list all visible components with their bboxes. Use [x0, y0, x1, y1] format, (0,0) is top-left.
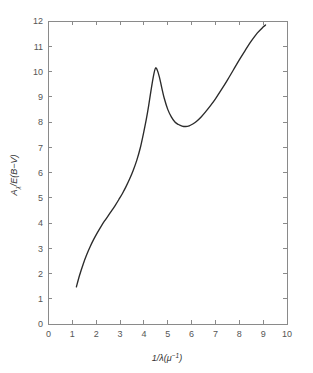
x-tick-label-6: 6 [189, 329, 194, 339]
x-tick-label-2: 2 [94, 329, 99, 339]
y-tick-label-9: 9 [38, 92, 43, 102]
x-tick-label-3: 3 [118, 329, 123, 339]
y-tick-label-7: 7 [38, 143, 43, 153]
x-tick-label-5: 5 [165, 329, 170, 339]
y-tick-label-2: 2 [38, 269, 43, 279]
x-tick-label-7: 7 [213, 329, 218, 339]
y-tick-label-11: 11 [34, 42, 43, 52]
figure-background [0, 0, 313, 373]
x-tick-label-4: 4 [141, 329, 146, 339]
y-tick-label-6: 6 [38, 168, 43, 178]
y-tick-label-1: 1 [38, 294, 43, 304]
y-tick-label-8: 8 [38, 117, 43, 127]
y-tick-label-10: 10 [33, 67, 43, 77]
x-tick-label-1: 1 [70, 329, 75, 339]
x-tick-label-8: 8 [237, 329, 242, 339]
plot-canvas: 012345678910 0123456789101112 1/λ(μ−1) A… [0, 0, 313, 373]
x-tick-label-0: 0 [46, 329, 51, 339]
x-tick-label-10: 10 [282, 329, 292, 339]
y-tick-label-4: 4 [38, 218, 43, 228]
y-tick-label-5: 5 [38, 193, 43, 203]
x-tick-label-9: 9 [261, 329, 266, 339]
y-tick-label-0: 0 [38, 319, 43, 329]
extinction-curve-figure: 012345678910 0123456789101112 1/λ(μ−1) A… [0, 0, 313, 373]
y-tick-label-3: 3 [38, 244, 43, 254]
y-tick-label-12: 12 [33, 16, 43, 26]
